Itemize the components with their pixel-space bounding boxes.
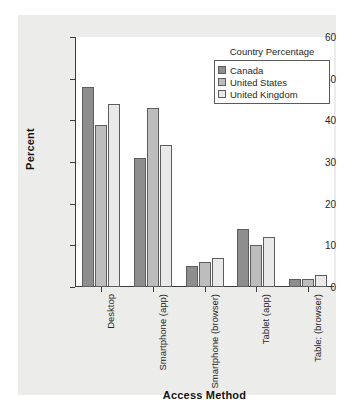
x-axis-tick (308, 287, 309, 292)
x-axis-tick-label: Smartphone (browser) (209, 294, 220, 389)
x-axis-title: Access Method (75, 389, 334, 401)
legend: Country Percentage CanadaUnited StatesUn… (214, 46, 330, 104)
y-axis-tick (70, 245, 75, 246)
y-axis-tick-label: 10 (290, 240, 336, 251)
x-axis-tick (205, 287, 206, 292)
x-axis-tick-label: Table: (browser) (312, 294, 323, 362)
y-axis-tick-label: 40 (290, 115, 336, 126)
legend-item-label: United States (230, 77, 287, 88)
legend-swatch-icon (218, 78, 226, 86)
bar (302, 279, 314, 287)
y-axis-tick (70, 287, 75, 288)
bar (147, 108, 159, 287)
legend-title: Country Percentage (214, 46, 330, 57)
x-axis-tick (101, 287, 102, 292)
y-axis-title: Percent (24, 104, 36, 194)
x-axis-tick (153, 287, 154, 292)
y-axis-tick-label: 30 (290, 157, 336, 168)
legend-item: Canada (218, 64, 325, 76)
bar (82, 87, 94, 287)
legend-swatch-icon (218, 90, 226, 98)
legend-swatch-icon (218, 66, 226, 74)
legend-item: United States (218, 76, 325, 88)
y-axis-tick (70, 37, 75, 38)
x-axis-tick-label: Tablet (app) (260, 294, 271, 344)
legend-item: United Kingdom (218, 88, 325, 100)
bar (160, 145, 172, 287)
y-axis-tick (70, 120, 75, 121)
bar (95, 125, 107, 288)
y-axis-tick-label: 60 (290, 32, 336, 43)
bar (289, 279, 301, 287)
y-axis-line (75, 37, 76, 287)
bar (186, 266, 198, 287)
bar (199, 262, 211, 287)
bar (315, 275, 327, 288)
bar (212, 258, 224, 287)
bar (134, 158, 146, 287)
y-axis-tick (70, 204, 75, 205)
bar (108, 104, 120, 287)
chart-figure: 0102030405060 Percent DesktopSmartphone … (0, 0, 352, 410)
figure-canvas: 0102030405060 Percent DesktopSmartphone … (18, 15, 336, 395)
bar (237, 229, 249, 287)
x-axis-tick-label: Smartphone (app) (157, 294, 168, 371)
legend-box: CanadaUnited StatesUnited Kingdom (214, 60, 330, 104)
bar (250, 245, 262, 287)
x-axis-tick-label: Desktop (105, 294, 116, 329)
bar (263, 237, 275, 287)
x-axis-tick (256, 287, 257, 292)
legend-item-label: United Kingdom (230, 89, 298, 100)
y-axis-tick (70, 79, 75, 80)
legend-item-label: Canada (230, 65, 263, 76)
y-axis-tick (70, 162, 75, 163)
y-axis-tick-label: 20 (290, 198, 336, 209)
